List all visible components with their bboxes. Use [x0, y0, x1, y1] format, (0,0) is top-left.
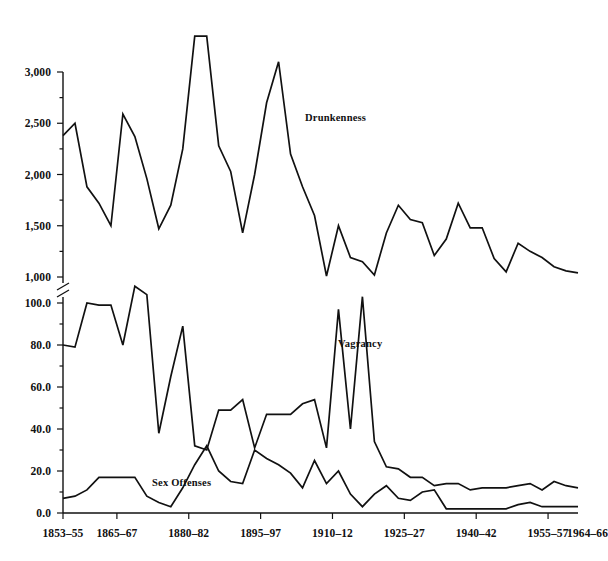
y-axis-upper-tick-label: 1,000 — [0, 271, 51, 283]
x-axis-tick-label: 1910–12 — [312, 527, 353, 539]
y-axis-upper-tick-label: 2,000 — [0, 169, 51, 181]
y-axis-lower-tick-label: 0.0 — [0, 507, 51, 519]
y-axis-lower-tick-label: 80.0 — [0, 339, 51, 351]
series-label-drunkenness: Drunkenness — [305, 112, 366, 123]
series-line-sex-offenses — [63, 446, 578, 509]
x-axis-tick-label: 1955–57 — [528, 527, 569, 539]
y-axis-lower-tick-label: 40.0 — [0, 423, 51, 435]
x-axis-ticks — [63, 513, 586, 519]
x-axis-tick-label: 1964–66 — [567, 527, 608, 539]
y-axis-lower-tick-label: 60.0 — [0, 381, 51, 393]
y-axis-upper-tick-label: 3,000 — [0, 66, 51, 78]
x-axis-tick-label: 1940–42 — [456, 527, 497, 539]
x-axis-tick-label: 1853–55 — [43, 527, 84, 539]
axis-break-icon — [57, 283, 69, 297]
x-axis-tick-label: 1895–97 — [240, 527, 281, 539]
series-label-vagrancy: Vagrancy — [338, 338, 382, 349]
series-line-vagrancy — [63, 286, 578, 490]
y-axis-lower-tick-label: 100.0 — [0, 297, 51, 309]
y-axis-lower-tick-label: 20.0 — [0, 465, 51, 477]
y-axis-upper-tick-label: 1,500 — [0, 220, 51, 232]
chart-series-lines — [63, 36, 578, 509]
y-axis-ticks — [57, 72, 63, 513]
x-axis-tick-label: 1925–27 — [384, 527, 425, 539]
series-label-sex-offenses: Sex Offenses — [152, 477, 211, 488]
x-axis-tick-label: 1865–67 — [96, 527, 137, 539]
y-axis-upper-tick-label: 2,500 — [0, 117, 51, 129]
series-line-drunkenness — [63, 36, 578, 276]
x-axis-tick-label: 1880–82 — [168, 527, 209, 539]
